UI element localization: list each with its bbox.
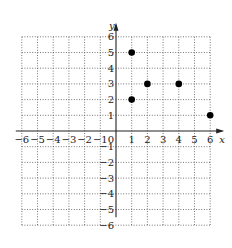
x-tick-label: 5 [191,134,197,145]
x-tick-label: −2 [77,134,92,145]
data-point [128,96,135,103]
y-tick-label: 6 [108,31,114,42]
y-axis-label: y [108,20,115,31]
x-tick-label: 1 [129,134,135,145]
x-tick-label: 6 [207,134,213,145]
x-tick-label: 4 [176,134,182,145]
data-point [207,112,214,119]
y-tick-label: −4 [99,188,114,199]
y-tick-label: 1 [108,110,114,121]
y-tick-label: −2 [99,157,114,168]
y-tick-label: 2 [108,94,114,105]
x-tick-label: −6 [14,134,29,145]
y-tick-label: 4 [108,63,114,74]
y-tick-label: 5 [108,47,114,58]
x-tick-label: −3 [62,134,77,145]
x-axis-arrow-icon [216,129,224,134]
y-tick-label: −3 [99,173,114,184]
x-tick-label: −4 [46,134,61,145]
data-point [144,81,151,88]
x-tick-label: 2 [144,134,150,145]
y-tick-label: 3 [108,78,114,89]
x-tick-label: 3 [160,134,166,145]
data-point [128,49,135,56]
coordinate-plane: xy−6−5−4−3−2−10123456654321−1−2−3−4−5−6 [0,0,232,248]
x-axis-label: x [219,134,225,145]
data-point [176,81,183,88]
y-tick-label: −1 [99,141,114,152]
x-tick-label: −5 [30,134,45,145]
y-tick-label: −5 [99,204,114,215]
y-tick-label: −6 [99,220,114,231]
